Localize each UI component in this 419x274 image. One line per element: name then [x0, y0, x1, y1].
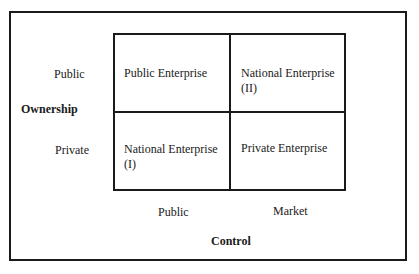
row-label-private: Private [55, 143, 89, 157]
column-label-public: Public [158, 205, 189, 219]
cell-national-enterprise-ii: National Enterprise (II) [241, 66, 335, 96]
cell-line1: National Enterprise [124, 142, 218, 157]
column-axis-title: Control [211, 234, 251, 248]
cell-line1: Public Enterprise [124, 66, 207, 81]
grid-horizontal-divider [113, 111, 346, 113]
cell-line2: (II) [241, 81, 335, 96]
cell-line1: Private Enterprise [241, 141, 327, 156]
column-label-market: Market [273, 204, 308, 218]
cell-line1: National Enterprise [241, 66, 335, 81]
cell-public-enterprise: Public Enterprise [124, 66, 207, 81]
cell-private-enterprise: Private Enterprise [241, 141, 327, 156]
cell-line2: (I) [124, 157, 218, 172]
row-axis-title: Ownership [21, 102, 78, 116]
cell-national-enterprise-i: National Enterprise (I) [124, 142, 218, 172]
row-label-public: Public [54, 67, 85, 81]
